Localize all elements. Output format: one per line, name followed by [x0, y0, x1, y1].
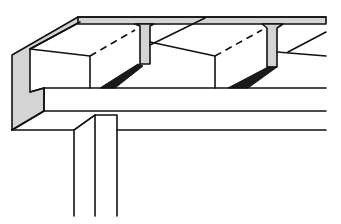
rib-joint [100, 64, 277, 88]
end-section [12, 17, 80, 130]
filler-block-partial [277, 32, 326, 56]
filler-block [150, 18, 262, 88]
column [74, 115, 117, 216]
support-beam [12, 88, 326, 130]
